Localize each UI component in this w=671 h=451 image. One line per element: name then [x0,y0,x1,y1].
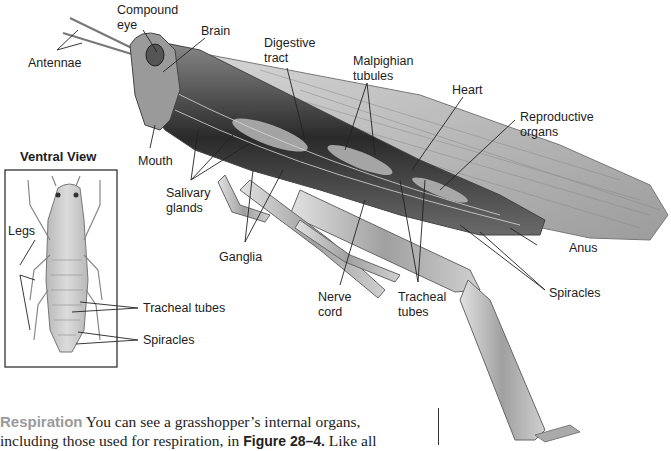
label-salivary-line1: Salivary [166,186,210,200]
label-antennae: Antennae [28,56,82,70]
label-tracheal-line1: Tracheal [398,290,446,304]
section-heading: Respiration [0,413,83,430]
label-salivary-line2: glands [166,201,203,215]
label-nerve-cord-line2: cord [318,305,342,319]
figure-reference: Figure 28–4. [243,433,325,449]
label-ganglia: Ganglia [219,250,262,264]
line-2-tail: Like all [325,432,377,449]
label-ventral-spiracles: Spiracles [143,333,194,347]
paragraph-line-2: including those used for respiration, in… [0,431,460,451]
label-mouth: Mouth [138,154,173,168]
line-2-text: including those used for respiration, in [0,432,243,449]
label-malpighian-line1: Malpighian [353,54,413,68]
label-anus: Anus [569,241,598,255]
label-digestive-line2: tract [264,51,288,65]
label-nerve-cord-line1: Nerve [318,290,351,304]
column-divider [438,408,439,445]
label-legs: Legs [8,224,35,238]
label-brain: Brain [201,24,230,38]
label-heart: Heart [452,83,483,97]
label-tracheal-line2: tubes [398,305,429,319]
line-1-text: You can see a grasshopper’s internal org… [83,413,361,430]
label-compound-eye-line1: Compound [117,3,178,17]
label-reproductive-line1: Reproductive [520,110,594,124]
label-compound-eye-line2: eye [117,18,137,32]
label-spiracles: Spiracles [549,286,600,300]
label-malpighian-line2: tubules [353,69,393,83]
label-reproductive-line2: organs [520,125,558,139]
label-digestive-line1: Digestive [264,36,315,50]
ventral-view-title: Ventral View [20,149,96,164]
paragraph-line-1: Respiration You can see a grasshopper’s … [0,412,460,431]
label-ventral-tracheal-tubes: Tracheal tubes [143,301,225,315]
body-paragraph: Respiration You can see a grasshopper’s … [0,412,460,451]
